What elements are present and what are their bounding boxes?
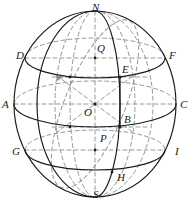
dot-left-B-level: [69, 126, 72, 129]
label-point-S: S: [93, 189, 99, 200]
dot-P: [94, 149, 97, 152]
label-point-I: I: [175, 146, 179, 157]
label-point-A: A: [2, 99, 9, 110]
dot-left-E-level: [69, 76, 72, 79]
label-point-E: E: [122, 64, 129, 75]
label-point-C: C: [180, 99, 187, 110]
label-point-G: G: [12, 146, 20, 157]
label-point-O: O: [84, 107, 92, 118]
label-point-H: H: [117, 172, 125, 183]
label-point-Q: Q: [97, 43, 105, 54]
label-point-B: B: [124, 114, 131, 125]
label-point-P: P: [100, 133, 107, 144]
dot-H: [111, 171, 114, 174]
label-point-N: N: [92, 2, 99, 13]
sphere-diagram: N D F Q E A C O B P G I H S: [0, 0, 194, 203]
dot-B: [118, 125, 121, 128]
label-point-D: D: [16, 50, 24, 61]
sphere-drawing-canvas: [0, 0, 194, 203]
center-dot-O: [93, 102, 96, 105]
label-point-F: F: [169, 50, 176, 61]
dot-E: [118, 75, 121, 78]
dot-Q: [94, 57, 97, 60]
